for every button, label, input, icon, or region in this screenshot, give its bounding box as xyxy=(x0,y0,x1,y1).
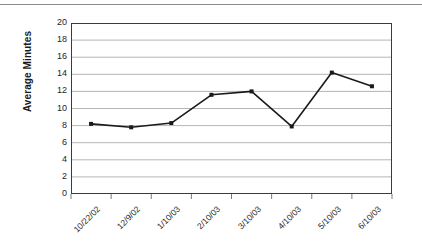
x-axis-tick-label: 3/10/03 xyxy=(222,204,263,245)
chart-figure: Average Minutes 02468101214161820 10/22/… xyxy=(0,0,422,251)
x-axis-tick-label: 5/10/03 xyxy=(302,204,343,245)
x-axis-tick-label: 12/9/02 xyxy=(101,204,142,245)
x-axis-tick-labels: 10/22/0212/9/021/10/032/10/033/10/034/10… xyxy=(0,0,422,251)
x-axis-tick-label: 1/10/03 xyxy=(141,204,182,245)
x-axis-tick-label: 6/10/03 xyxy=(342,204,383,245)
x-axis-tick-label: 2/10/03 xyxy=(181,204,222,245)
x-axis-tick-label: 4/10/03 xyxy=(262,204,303,245)
x-axis-tick-label: 10/22/02 xyxy=(61,204,102,245)
